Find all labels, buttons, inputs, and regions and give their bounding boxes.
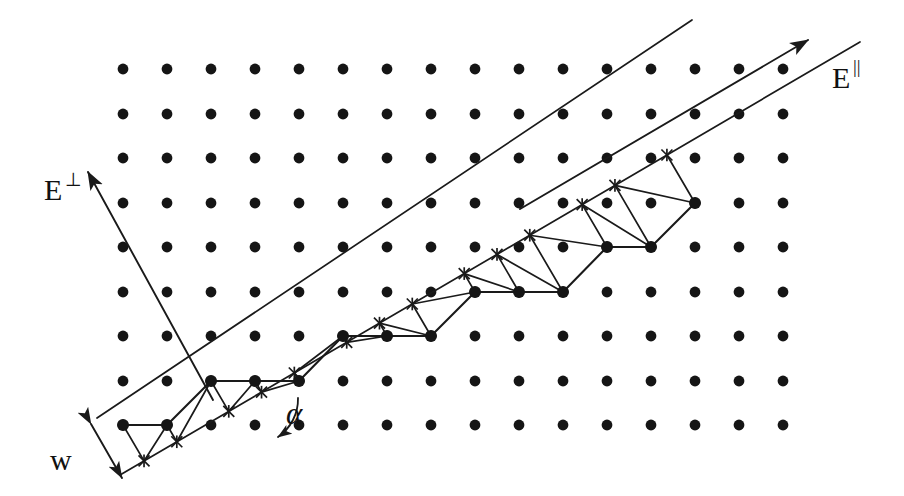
lattice-dot: [690, 287, 701, 298]
lattice-dot: [294, 198, 305, 209]
lattice-dot: [514, 64, 525, 75]
lattice-dot: [294, 64, 305, 75]
staircase-corner-dot: [601, 241, 613, 253]
lattice-dot: [338, 64, 349, 75]
lattice-dot: [778, 153, 789, 164]
lattice-dot: [206, 109, 217, 120]
figure-root: E || E ⊥ α w: [0, 0, 904, 496]
lattice-dot: [558, 420, 569, 431]
lattice-dot: [602, 64, 613, 75]
staircase-corner-dot: [513, 286, 525, 298]
lattice-dot: [382, 64, 393, 75]
lattice-dot: [162, 376, 173, 387]
lattice-dot: [426, 153, 437, 164]
lattice-step-diagram: E || E ⊥ α w: [0, 0, 904, 496]
lattice-dot: [426, 109, 437, 120]
lattice-dot: [734, 376, 745, 387]
lattice-dot: [250, 331, 261, 342]
e-parallel-superscript: ||: [853, 56, 861, 77]
lattice-dot: [470, 198, 481, 209]
lattice-dot: [602, 109, 613, 120]
lattice-dot: [250, 109, 261, 120]
lattice-dot: [778, 242, 789, 253]
lattice-dot: [558, 64, 569, 75]
lattice-dot: [118, 64, 129, 75]
lattice-dot: [778, 109, 789, 120]
lattice-dot: [294, 331, 305, 342]
lattice-dot: [734, 153, 745, 164]
staircase-corner-dot: [117, 419, 129, 431]
staircase-corner-dot: [689, 197, 701, 209]
lattice-dot: [646, 331, 657, 342]
lattice-dot: [250, 242, 261, 253]
lattice-dot: [602, 331, 613, 342]
lattice-dot: [558, 109, 569, 120]
lattice-dot: [470, 331, 481, 342]
lattice-dot: [602, 376, 613, 387]
lattice-dot: [338, 420, 349, 431]
lattice-dot: [426, 420, 437, 431]
lattice-dot: [734, 287, 745, 298]
lattice-dot: [470, 64, 481, 75]
lattice-dot: [602, 420, 613, 431]
lattice-dot: [118, 376, 129, 387]
lattice-dot: [514, 109, 525, 120]
lattice-dot: [382, 109, 393, 120]
alpha-angle-label: α: [286, 396, 303, 431]
lattice-dot: [294, 109, 305, 120]
lattice-dot: [646, 64, 657, 75]
staircase-corner-dot: [161, 419, 173, 431]
lattice-dot: [646, 287, 657, 298]
lattice-dot: [426, 198, 437, 209]
lattice-dot: [646, 109, 657, 120]
lattice-dot: [514, 376, 525, 387]
lattice-dot: [602, 198, 613, 209]
lattice-dot: [162, 242, 173, 253]
lattice-dot: [250, 420, 261, 431]
lattice-dot: [162, 64, 173, 75]
figure-background: [0, 0, 904, 496]
lattice-dot: [162, 331, 173, 342]
staircase-corner-dot: [205, 375, 217, 387]
lattice-dot: [250, 153, 261, 164]
lattice-dot: [470, 376, 481, 387]
lattice-dot: [206, 287, 217, 298]
lattice-dot: [382, 287, 393, 298]
lattice-dot: [514, 331, 525, 342]
lattice-dot: [690, 153, 701, 164]
lattice-dot: [514, 153, 525, 164]
lattice-dot: [734, 198, 745, 209]
lattice-dot: [558, 153, 569, 164]
lattice-dot: [558, 331, 569, 342]
staircase-corner-dot: [337, 330, 349, 342]
lattice-dot: [118, 153, 129, 164]
staircase-corner-dot: [293, 375, 305, 387]
lattice-dot: [778, 331, 789, 342]
lattice-dot: [382, 198, 393, 209]
lattice-dot: [646, 420, 657, 431]
lattice-dot: [206, 198, 217, 209]
lattice-dot: [734, 331, 745, 342]
terrace-width-label: w: [50, 443, 72, 476]
lattice-dot: [426, 242, 437, 253]
lattice-dot: [118, 109, 129, 120]
e-perpendicular-base: E: [44, 173, 62, 206]
lattice-dot: [558, 376, 569, 387]
lattice-dot: [294, 242, 305, 253]
lattice-dot: [338, 109, 349, 120]
lattice-dot: [734, 242, 745, 253]
lattice-dot: [734, 64, 745, 75]
lattice-dot: [162, 198, 173, 209]
lattice-dot: [690, 331, 701, 342]
lattice-dot: [690, 420, 701, 431]
lattice-dot: [602, 287, 613, 298]
lattice-dot: [250, 287, 261, 298]
lattice-dot: [690, 64, 701, 75]
lattice-dot: [558, 198, 569, 209]
lattice-dot: [470, 242, 481, 253]
lattice-dot: [206, 153, 217, 164]
lattice-dot: [294, 287, 305, 298]
lattice-dot: [778, 64, 789, 75]
lattice-dot: [426, 64, 437, 75]
lattice-dot: [690, 376, 701, 387]
